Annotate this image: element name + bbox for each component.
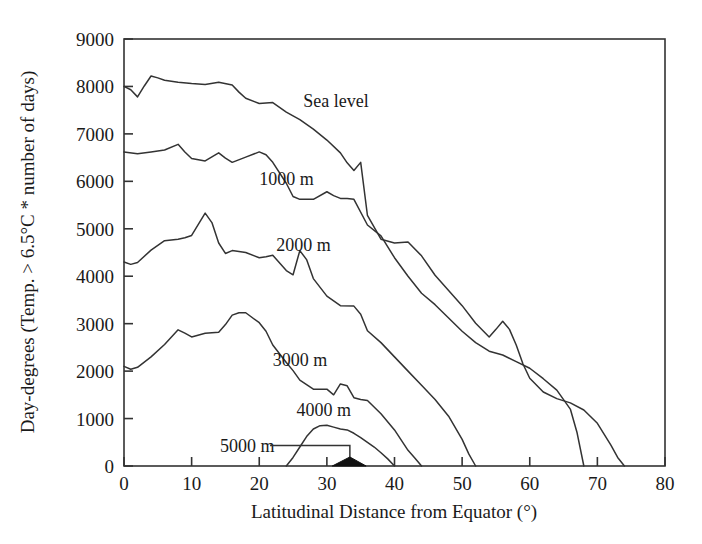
x-tick-label: 50 [453, 473, 472, 494]
y-tick-label: 5000 [76, 219, 114, 240]
y-tick-label: 6000 [76, 171, 114, 192]
x-tick-label: 40 [385, 473, 404, 494]
series-label-1000-m: 1000 m [259, 169, 314, 189]
y-tick-label: 4000 [76, 266, 114, 287]
y-tick-label: 3000 [76, 314, 114, 335]
y-tick-label: 0 [105, 456, 115, 477]
y-tick-label: 7000 [76, 124, 114, 145]
y-tick-label: 9000 [76, 29, 114, 50]
x-tick-label: 20 [250, 473, 269, 494]
y-tick-label: 2000 [76, 361, 114, 382]
series-label-2000-m: 2000 m [276, 235, 331, 255]
x-tick-label: 60 [520, 473, 539, 494]
y-axis-title: Day-degrees (Temp. > 6.5°C * number of d… [17, 71, 39, 434]
y-tick-label: 8000 [76, 76, 114, 97]
series-label-4000-m: 4000 m [296, 400, 351, 420]
x-tick-label: 30 [317, 473, 336, 494]
x-tick-label: 70 [588, 473, 607, 494]
annotation-label-5000-m: 5000 m [220, 436, 275, 456]
series-label-3000-m: 3000 m [273, 350, 328, 370]
chart-figure: 0100020003000400050006000700080009000 01… [0, 0, 702, 544]
x-axis-title: Latitudinal Distance from Equator (°) [251, 501, 537, 523]
x-tick-label: 0 [119, 473, 129, 494]
line-chart: 0100020003000400050006000700080009000 01… [0, 0, 702, 544]
x-tick-label: 80 [656, 473, 675, 494]
series-label-sea-level: Sea level [303, 91, 368, 111]
y-tick-label: 1000 [76, 409, 114, 430]
x-tick-label: 10 [182, 473, 201, 494]
